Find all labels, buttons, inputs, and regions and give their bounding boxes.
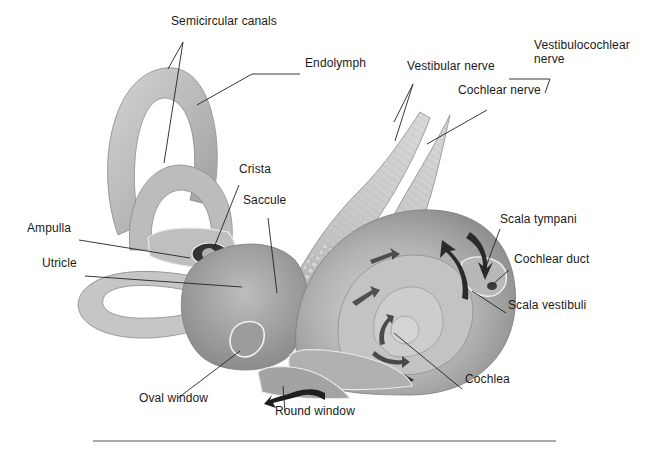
leader-line-endolymph — [197, 74, 300, 105]
label-cochlear-duct: Cochlear duct — [514, 253, 589, 266]
label-scala-vestibuli: Scala vestibuli — [508, 299, 586, 312]
label-cochlea: Cochlea — [465, 373, 510, 386]
label-vestibular-nerve: Vestibular nerve — [407, 60, 495, 73]
label-utricle: Utricle — [42, 257, 77, 270]
label-semicircular-canals: Semicircular canals — [171, 15, 277, 28]
label-cochlear-nerve: Cochlear nerve — [458, 84, 541, 97]
leader-line-cochlear-nerve — [427, 110, 487, 144]
label-vestibulocochlear-nerve: Vestibulocochlear nerve — [534, 38, 629, 66]
label-endolymph: Endolymph — [305, 57, 366, 70]
leader-line-vestibular-nerve — [394, 84, 413, 122]
label-crista: Crista — [239, 163, 271, 176]
label-saccule: Saccule — [243, 194, 286, 207]
label-oval-window: Oval window — [139, 392, 208, 405]
vestibule-shape — [181, 244, 307, 370]
label-scala-tympani: Scala tympani — [500, 213, 577, 226]
label-round-window: Round window — [275, 405, 355, 418]
label-ampulla: Ampulla — [27, 222, 71, 235]
inner-ear-diagram: Semicircular canals Endolymph Vestibular… — [0, 0, 648, 452]
